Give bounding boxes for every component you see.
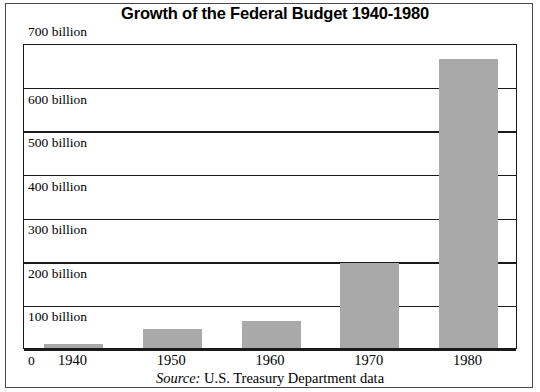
x-axis-tick-label-1980: 1980 bbox=[428, 352, 508, 369]
source-caption: Source: U.S. Treasury Department data bbox=[23, 370, 517, 387]
plot-inner bbox=[24, 45, 516, 348]
plot-area bbox=[23, 44, 517, 349]
gridline-0 bbox=[24, 349, 516, 351]
bar-1980 bbox=[439, 59, 498, 348]
y-axis-tick-label-200: 200 billion bbox=[28, 266, 87, 282]
y-axis-tick-label-100: 100 billion bbox=[28, 309, 87, 325]
x-axis-tick-label-1970: 1970 bbox=[329, 352, 409, 369]
x-axis-tick-label-1950: 1950 bbox=[131, 352, 211, 369]
y-axis-tick-label-500: 500 billion bbox=[28, 135, 87, 151]
x-axis-tick-label-1940: 1940 bbox=[32, 352, 112, 369]
source-text: U.S. Treasury Department data bbox=[200, 370, 384, 386]
bar-1950 bbox=[143, 329, 202, 348]
y-axis-tick-label-600: 600 billion bbox=[28, 92, 87, 108]
bar-1970 bbox=[340, 263, 399, 348]
chart-title: Growth of the Federal Budget 1940-1980 bbox=[110, 4, 440, 23]
y-axis-tick-label-300: 300 billion bbox=[28, 222, 87, 238]
x-axis-tick-label-1960: 1960 bbox=[230, 352, 310, 369]
y-axis-tick-label-400: 400 billion bbox=[28, 179, 87, 195]
y-axis-tick-label-700: 700 billion bbox=[28, 24, 87, 40]
chart-figure: Growth of the Federal Budget 1940-1980 7… bbox=[0, 0, 540, 392]
bar-1960 bbox=[242, 321, 301, 348]
source-label: Source: bbox=[156, 370, 201, 386]
bar-1940 bbox=[44, 344, 103, 348]
